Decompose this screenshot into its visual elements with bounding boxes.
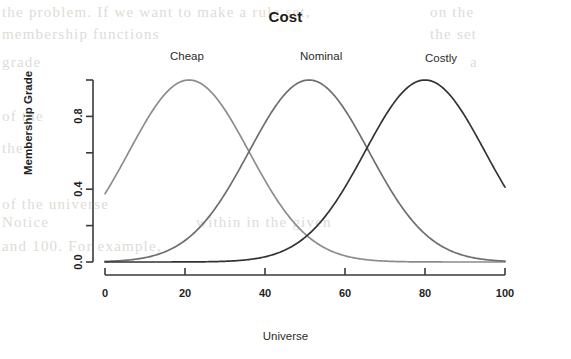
chart-figure: Cost Cheap Nominal Costly 020406080100 0… — [0, 0, 571, 359]
y-tick-label: 0.4 — [50, 183, 78, 195]
membership-function-plot — [0, 0, 571, 359]
curve-cheap — [105, 80, 505, 262]
plot-curves — [105, 80, 505, 262]
x-tick-label: 80 — [419, 287, 431, 299]
y-tick-label: 0.0 — [50, 256, 78, 268]
x-tick-label: 0 — [102, 287, 108, 299]
x-tick-label: 60 — [339, 287, 351, 299]
y-axis-title: Membership Grade — [22, 71, 34, 175]
y-tick-label: 0.8 — [50, 110, 78, 122]
x-tick-label: 20 — [179, 287, 191, 299]
y-tick-label-text: 0.4 — [72, 182, 84, 197]
curve-label-cheap: Cheap — [170, 50, 204, 62]
x-axis-title: Universe — [0, 330, 571, 342]
y-tick-label-text: 0.0 — [72, 254, 84, 269]
curve-label-nominal: Nominal — [300, 50, 342, 62]
curve-label-costly: Costly — [425, 52, 457, 64]
x-tick-label: 100 — [496, 287, 514, 299]
page-title: Cost — [0, 8, 571, 25]
y-tick-label-text: 0.8 — [72, 109, 84, 124]
x-tick-label: 40 — [259, 287, 271, 299]
